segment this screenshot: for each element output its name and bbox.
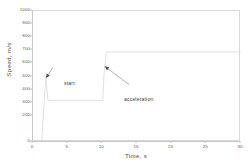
x-tick-label: 10: [99, 145, 104, 149]
annotation-arrow-head: [46, 74, 50, 79]
x-tick-label: 5: [65, 145, 68, 149]
y-tick-label: 0: [2, 139, 30, 143]
x-axis-title: Time, s: [32, 152, 240, 159]
x-tick-mark: [205, 141, 206, 143]
y-axis-title: Speed, m/s: [5, 24, 12, 96]
x-tick-label: 20: [168, 145, 173, 149]
speed-time-chart: 02003004005006007008009001000 0510152025…: [0, 0, 252, 167]
x-tick-mark: [66, 141, 67, 143]
x-tick-mark: [136, 141, 137, 143]
y-tick-label: 200: [2, 113, 30, 117]
y-tick-label: 1000: [2, 8, 30, 12]
x-tick-label: 0: [31, 145, 34, 149]
x-tick-mark: [101, 141, 102, 143]
annotation-arrows: [46, 66, 129, 84]
x-tick-label: 25: [203, 145, 208, 149]
annotation-acceleration-label: acceleration: [124, 97, 153, 102]
x-tick-label: 15: [133, 145, 138, 149]
x-tick-mark: [32, 141, 33, 143]
annotation-start-label: start: [64, 81, 75, 86]
x-tick-label: 30: [237, 145, 242, 149]
annotation-arrow-head: [105, 66, 110, 70]
data-curve-layer: [32, 10, 240, 141]
annotation-leader-line: [105, 66, 129, 84]
x-tick-mark: [240, 141, 241, 143]
x-tick-mark: [170, 141, 171, 143]
y-tick-label: 300: [2, 99, 30, 103]
